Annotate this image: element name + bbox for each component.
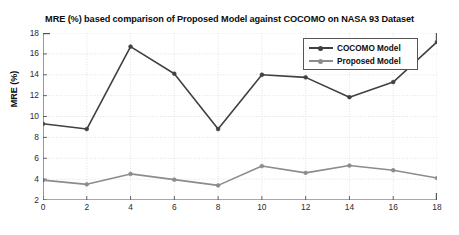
y-tick-label: 16 [13, 49, 39, 57]
x-tick-label: 8 [206, 203, 230, 211]
y-tick-label: 18 [13, 29, 39, 37]
y-tick-label: 12 [13, 91, 39, 99]
legend-marker-dot [318, 46, 323, 51]
x-axis-tick-labels: 024681012141618 [43, 203, 437, 217]
legend-item-proposed-model: Proposed Model [309, 55, 401, 67]
chart-figure: MRE (%) based comparison of Proposed Mod… [0, 0, 459, 235]
chart-legend: COCOMO Model Proposed Model [303, 38, 418, 70]
legend-label: Proposed Model [337, 57, 401, 66]
legend-line-marker-icon [309, 43, 333, 53]
y-tick-label: 4 [13, 175, 39, 183]
x-tick-label: 2 [75, 203, 99, 211]
x-tick-label: 4 [119, 203, 143, 211]
legend-marker-dot [318, 59, 323, 64]
y-tick-label: 8 [13, 133, 39, 141]
legend-line-marker-icon [309, 56, 333, 66]
x-tick-label: 6 [162, 203, 186, 211]
legend-item-cocomo-model: COCOMO Model [309, 42, 401, 54]
chart-title: MRE (%) based comparison of Proposed Mod… [0, 14, 459, 24]
y-axis-tick-labels: 18161412108642 [8, 33, 39, 200]
x-tick-label: 12 [294, 203, 318, 211]
y-tick-label: 6 [13, 154, 39, 162]
legend-label: COCOMO Model [337, 44, 401, 53]
x-tick-label: 18 [425, 203, 449, 211]
y-tick-label: 10 [13, 112, 39, 120]
y-tick-label: 14 [13, 70, 39, 78]
x-tick-label: 0 [31, 203, 55, 211]
x-tick-label: 16 [381, 203, 405, 211]
x-tick-label: 14 [337, 203, 361, 211]
x-tick-label: 10 [250, 203, 274, 211]
